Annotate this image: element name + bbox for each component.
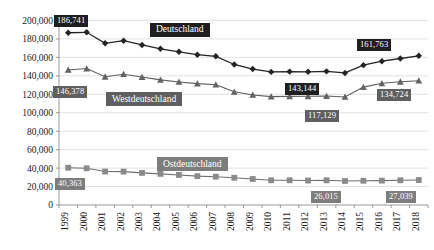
data-label-deutschland-2014: 143,144	[285, 83, 319, 95]
svg-text:0: 0	[48, 200, 53, 210]
svg-text:2015: 2015	[355, 212, 365, 231]
series-markers	[65, 29, 422, 184]
data-label-ostdeutschland-2014: 26,015	[311, 191, 341, 203]
svg-text:2012: 2012	[300, 212, 310, 231]
svg-text:2006: 2006	[189, 212, 199, 231]
x-axis-ticks	[59, 205, 428, 208]
svg-text:2013: 2013	[319, 212, 329, 231]
svg-text:80,000: 80,000	[27, 127, 53, 137]
svg-text:2010: 2010	[263, 212, 273, 231]
svg-text:140,000: 140,000	[22, 71, 53, 81]
svg-text:2009: 2009	[245, 212, 255, 231]
data-label-ostdeutschland-2018: 27,039	[386, 191, 416, 203]
svg-text:100,000: 100,000	[22, 108, 53, 118]
line-chart: 020,00040,00060,00080,000100,000120,0001…	[0, 0, 434, 250]
svg-text:60,000: 60,000	[27, 145, 53, 155]
series-lines	[68, 32, 419, 181]
data-label-westdeutschland-1999: 146,378	[53, 86, 87, 98]
svg-text:2000: 2000	[79, 212, 89, 231]
svg-text:2003: 2003	[134, 212, 144, 231]
svg-text:2007: 2007	[208, 212, 218, 231]
svg-text:2016: 2016	[374, 212, 384, 231]
data-label-westdeutschland-2014: 117,129	[305, 110, 339, 122]
svg-text:1999: 1999	[60, 212, 70, 231]
svg-text:2001: 2001	[97, 212, 107, 231]
y-axis-tick-labels: 020,00040,00060,00080,000100,000120,0001…	[22, 16, 53, 211]
data-label-deutschland-1999: 186,741	[54, 15, 88, 27]
svg-text:2018: 2018	[411, 212, 421, 231]
svg-text:2008: 2008	[226, 212, 236, 231]
x-axis-tick-labels: 1999200020012002200320042005200620072008…	[60, 212, 421, 231]
svg-text:2004: 2004	[152, 212, 162, 231]
svg-text:40,000: 40,000	[27, 164, 53, 174]
data-label-westdeutschland-2018: 134,724	[377, 89, 411, 101]
svg-text:120,000: 120,000	[22, 90, 53, 100]
svg-text:160,000: 160,000	[22, 53, 53, 63]
svg-text:2011: 2011	[282, 212, 292, 231]
svg-text:180,000: 180,000	[22, 34, 53, 44]
svg-text:2014: 2014	[337, 212, 347, 231]
data-label-deutschland-2018: 161,763	[357, 39, 391, 51]
svg-text:20,000: 20,000	[27, 182, 53, 192]
svg-text:2002: 2002	[116, 212, 126, 231]
series-label-westdeutschland: Westdeutschland	[106, 92, 182, 106]
svg-text:200,000: 200,000	[22, 16, 53, 26]
svg-text:2017: 2017	[392, 212, 402, 231]
series-label-ostdeutschland: Ostdeutschland	[157, 157, 228, 171]
series-label-deutschland: Deutschland	[150, 23, 210, 37]
svg-text:2005: 2005	[171, 212, 181, 231]
data-label-ostdeutschland-1999: 40,363	[55, 178, 85, 190]
chart-plot-area: 020,00040,00060,00080,000100,000120,0001…	[0, 0, 434, 250]
